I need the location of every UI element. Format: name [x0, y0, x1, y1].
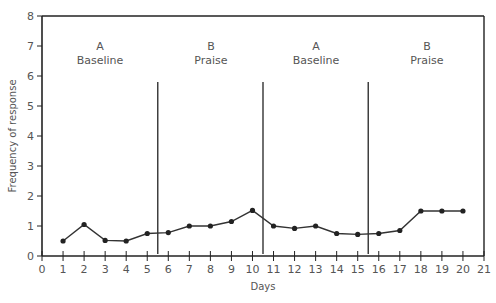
x-tick-label: 1 [60, 263, 67, 276]
data-point [229, 219, 234, 224]
data-point [208, 223, 213, 228]
data-point [376, 231, 381, 236]
x-tick-label: 9 [228, 263, 235, 276]
x-tick-label: 13 [309, 263, 323, 276]
x-ticks: 0123456789101112131415161718192021 [39, 251, 492, 276]
x-tick-label: 11 [267, 263, 281, 276]
phase2-letter: B [207, 40, 215, 53]
data-point [124, 238, 129, 243]
data-point [60, 238, 65, 243]
data-point [355, 232, 360, 237]
data-point [334, 231, 339, 236]
x-tick-label: 19 [435, 263, 449, 276]
phase4-letter: B [423, 40, 431, 53]
phase1-letter: A [96, 40, 104, 53]
y-ticks: 012345678 [27, 10, 42, 263]
x-tick-label: 5 [144, 263, 151, 276]
phase-labels: A Baseline B Praise A Baseline B Praise [77, 40, 444, 67]
x-tick-label: 0 [39, 263, 46, 276]
data-point [418, 208, 423, 213]
y-tick-label: 7 [27, 40, 34, 53]
phase3-name: Baseline [293, 54, 340, 67]
x-tick-label: 15 [351, 263, 365, 276]
data-point [313, 223, 318, 228]
y-tick-label: 8 [27, 10, 34, 23]
phase4-name: Praise [410, 54, 443, 67]
data-point [250, 208, 255, 213]
y-tick-label: 0 [27, 250, 34, 263]
x-tick-label: 21 [477, 263, 491, 276]
data-point [187, 223, 192, 228]
data-point [397, 228, 402, 233]
data-point [145, 231, 150, 236]
x-tick-label: 17 [393, 263, 407, 276]
x-tick-label: 20 [456, 263, 470, 276]
phase1-name: Baseline [77, 54, 124, 67]
y-axis-title: Frequency of response [7, 79, 18, 192]
x-tick-label: 14 [330, 263, 344, 276]
data-point [81, 222, 86, 227]
x-tick-label: 12 [288, 263, 302, 276]
data-point [439, 208, 444, 213]
y-tick-label: 2 [27, 190, 34, 203]
y-tick-label: 4 [27, 130, 34, 143]
x-tick-label: 8 [207, 263, 214, 276]
x-tick-label: 16 [372, 263, 386, 276]
x-tick-label: 4 [123, 263, 130, 276]
x-axis-title: Days [251, 281, 276, 292]
x-tick-label: 10 [245, 263, 259, 276]
phase2-name: Praise [194, 54, 227, 67]
y-tick-label: 3 [27, 160, 34, 173]
x-tick-label: 3 [102, 263, 109, 276]
x-tick-label: 6 [165, 263, 172, 276]
y-tick-label: 5 [27, 100, 34, 113]
data-point [292, 226, 297, 231]
data-point [103, 238, 108, 243]
data-point [271, 223, 276, 228]
x-tick-label: 2 [81, 263, 88, 276]
data-point [460, 208, 465, 213]
phase-chart: 012345678 012345678910111213141516171819… [0, 0, 496, 303]
y-tick-label: 1 [27, 220, 34, 233]
phase3-letter: A [312, 40, 320, 53]
x-tick-label: 18 [414, 263, 428, 276]
y-tick-label: 6 [27, 70, 34, 83]
data-point [166, 230, 171, 235]
x-tick-label: 7 [186, 263, 193, 276]
